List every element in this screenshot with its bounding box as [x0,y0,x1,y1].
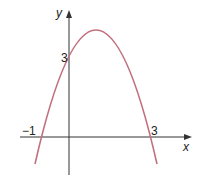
x-axis-label: x [182,140,190,154]
parabola-diagram: y x 3 −1 3 [0,0,200,183]
y-intercept-label: 3 [61,51,68,65]
y-axis-arrow-icon [66,10,72,18]
root-left-label: −1 [22,124,36,138]
root-right-label: 3 [151,124,158,138]
parabola-curve [35,30,157,164]
y-axis-label: y [55,6,63,20]
